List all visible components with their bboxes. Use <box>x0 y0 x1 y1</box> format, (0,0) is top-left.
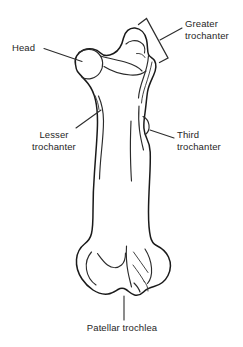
label-patellar-trochlea-line1: Patellar trochlea <box>72 322 172 334</box>
label-lesser-trochanter-line2: trochanter <box>18 141 90 153</box>
label-patellar-trochlea: Patellar trochlea <box>72 322 172 334</box>
label-third-trochanter: Third trochanter <box>177 129 221 152</box>
label-greater-trochanter-line2: trochanter <box>185 30 229 42</box>
label-greater-trochanter-line1: Greater <box>185 18 229 30</box>
label-lesser-trochanter: Lesser trochanter <box>18 129 90 152</box>
femur-illustration <box>0 0 243 347</box>
third-trochanter-leader-line <box>150 130 174 138</box>
femur-diagram-figure: Head Greater trochanter Lesser trochante… <box>0 0 243 347</box>
label-greater-trochanter: Greater trochanter <box>185 18 229 41</box>
label-third-trochanter-line1: Third <box>177 129 221 141</box>
greater-trochanter-leader-line <box>160 28 182 40</box>
label-head: Head <box>12 42 35 54</box>
label-lesser-trochanter-line1: Lesser <box>18 129 90 141</box>
head-leader-line <box>44 49 82 62</box>
label-third-trochanter-line2: trochanter <box>177 141 221 153</box>
label-head-line1: Head <box>12 42 35 54</box>
